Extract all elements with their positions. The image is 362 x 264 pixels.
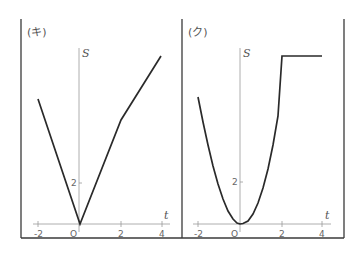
panel-ku: (ク) S t -2 O 2 4 2 [188, 26, 331, 239]
origin-label: O [70, 229, 77, 239]
ytick-label-2: 2 [232, 177, 238, 187]
tick-label-4: 4 [159, 229, 165, 239]
t-axis-label: t [325, 209, 330, 222]
graph-curve [198, 56, 322, 224]
tick-label-2: 2 [279, 229, 285, 239]
panel-title: (キ) [27, 26, 47, 39]
panel-ki: (キ) S t -2 O 2 4 2 [27, 26, 170, 239]
s-axis-label: S [243, 47, 251, 60]
tick-label-neg2: -2 [194, 229, 203, 239]
tick-label-4: 4 [319, 229, 325, 239]
chart-figure: (キ) S t -2 O 2 4 2 (ク) S t -2 O 2 [0, 0, 362, 264]
t-axis-label: t [164, 209, 169, 222]
s-axis-label: S [82, 47, 90, 60]
tick-label-2: 2 [118, 229, 124, 239]
graph-line [38, 56, 161, 224]
panel-title: (ク) [188, 26, 208, 39]
ytick-label-2: 2 [71, 178, 77, 188]
frame [21, 19, 344, 238]
tick-label-neg2: -2 [34, 229, 43, 239]
origin-label: O [231, 229, 238, 239]
